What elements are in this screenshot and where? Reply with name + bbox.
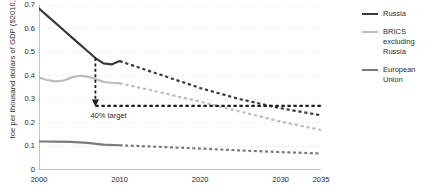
legend-label-russia: Russia — [383, 9, 406, 19]
x-tick-label: 2030 — [261, 176, 301, 184]
series-line-brics — [39, 76, 120, 84]
legend-label-brics: BRICS excluding Russia — [383, 27, 437, 57]
y-tick-label: 0.7 — [1, 1, 35, 9]
series-projection-european-union — [120, 145, 321, 153]
legend-label-european-union: European Union — [383, 65, 437, 85]
series-line-russia — [39, 9, 120, 65]
y-tick-label: 0.1 — [1, 142, 35, 150]
x-tick-label: 2020 — [180, 176, 220, 184]
x-tick-label: 2010 — [100, 176, 140, 184]
legend-swatch-brics — [362, 31, 378, 33]
y-tick-label: 0.3 — [1, 95, 35, 103]
x-tick-label: 2035 — [301, 176, 341, 184]
x-tick-label: 2000 — [19, 176, 59, 184]
y-tick-label: 0.2 — [1, 119, 35, 127]
y-tick-label: 0.4 — [1, 72, 35, 80]
legend-swatch-european-union — [362, 69, 378, 71]
series-line-european-union — [39, 141, 120, 145]
chart-root: toe per thousand dollars of GDP ($2010, … — [0, 0, 437, 194]
y-tick-label: 0 — [1, 166, 35, 174]
legend-item-russia[interactable]: Russia — [362, 9, 437, 19]
plot-area — [39, 5, 321, 170]
y-tick-label: 0.6 — [1, 25, 35, 33]
legend-item-european-union[interactable]: European Union — [362, 65, 437, 85]
y-tick-label: 0.5 — [1, 48, 35, 56]
chart-svg — [39, 5, 321, 170]
chart-legend: Russia BRICS excluding Russia European U… — [362, 9, 437, 93]
legend-swatch-russia — [362, 13, 378, 15]
legend-item-brics[interactable]: BRICS excluding Russia — [362, 27, 437, 57]
